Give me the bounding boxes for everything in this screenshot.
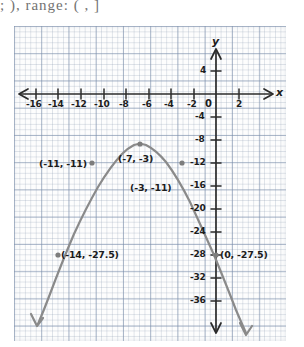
point-label-vertex: (-7, -3) — [118, 154, 153, 164]
y-tick-label-neg32: -32 — [190, 273, 205, 282]
y-tick-label-neg4: -4 — [195, 112, 204, 121]
x-tick-label-neg12: -12 — [71, 100, 86, 109]
y-tick-label-neg8: -8 — [195, 135, 204, 144]
x-tick-label-neg6: -6 — [142, 100, 151, 109]
x-tick-label-neg8: -8 — [119, 100, 128, 109]
y-tick-label-neg20: -20 — [190, 204, 205, 213]
graph-paper: -16 -14 -12 -10 -8 -6 -4 -2 0 2 4 -4 -8 … — [14, 26, 286, 341]
x-tick-label-2: 2 — [236, 100, 242, 109]
y-axis — [211, 49, 221, 333]
y-axis-label: y — [212, 36, 219, 47]
x-tick-label-neg10: -10 — [94, 100, 109, 109]
point-label-0-neg27-5: (0, -27.5) — [220, 250, 268, 260]
x-tick-label-zero: 0 — [205, 99, 212, 109]
y-tick-label-4: 4 — [200, 66, 206, 75]
parabola-curve — [31, 144, 252, 335]
x-axis — [19, 89, 273, 99]
y-tick-label-neg36: -36 — [190, 296, 205, 305]
x-tick-label-neg4: -4 — [164, 100, 173, 109]
graph-worksheet: ; ), range: ( , ] — [0, 0, 304, 347]
x-tick-label-neg14: -14 — [48, 100, 63, 109]
x-tick-label-neg16: -16 — [26, 100, 41, 109]
y-tick-label-neg28: -28 — [190, 250, 205, 259]
x-axis-label: x — [276, 87, 283, 98]
x-tick-label-neg2: -2 — [187, 100, 196, 109]
header-text-fragment: ; ), range: ( , ] — [0, 0, 304, 13]
y-tick-label-neg16: -16 — [190, 181, 205, 190]
y-tick-label-neg12: -12 — [190, 158, 205, 167]
point-label-neg11-neg11: (-11, -11) — [39, 159, 87, 169]
point-label-neg3-neg11: (-3, -11) — [130, 183, 172, 193]
y-tick-label-neg24: -24 — [190, 227, 205, 236]
point-label-neg14-neg27-5: (-14, -27.5) — [61, 250, 119, 260]
